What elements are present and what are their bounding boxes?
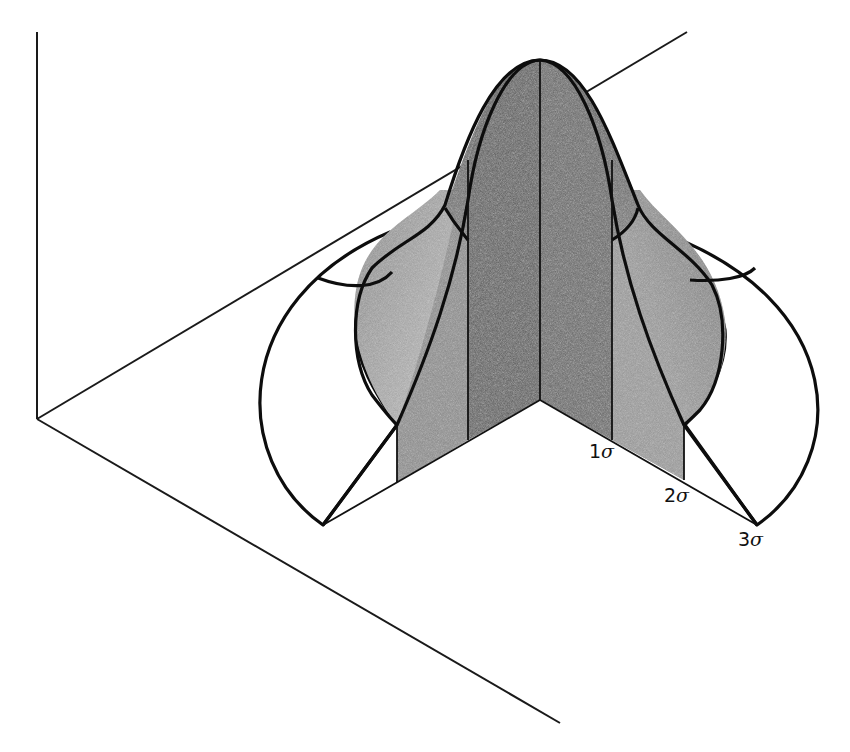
label-2-sigma: 2σ xyxy=(664,484,689,506)
diagram-canvas xyxy=(0,0,850,752)
front-axis xyxy=(37,419,560,723)
label-1-sigma: 1σ xyxy=(589,440,614,462)
gaussian-diagram: 1σ 2σ 3σ xyxy=(0,0,850,752)
label-3-sigma: 3σ xyxy=(738,528,763,550)
